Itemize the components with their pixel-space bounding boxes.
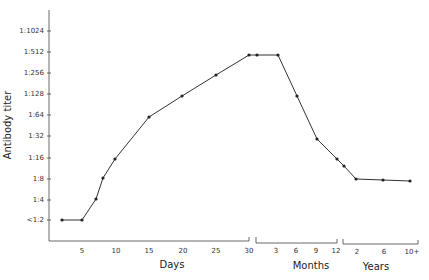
- data-point: [381, 178, 384, 181]
- x-axis-months: [256, 237, 337, 243]
- x-axis: [49, 237, 418, 244]
- y-tick-8: 1:8: [33, 175, 44, 183]
- x-tick-d25: 25: [212, 247, 221, 255]
- y-tick-4: 1:4: [33, 196, 45, 204]
- data-point: [408, 179, 411, 182]
- y-tick-128: 1:128: [24, 90, 44, 98]
- y-tick-64: 1:64: [28, 111, 44, 119]
- x-tick-d15: 15: [145, 247, 154, 255]
- data-point: [295, 94, 298, 97]
- x-tick-m6: 6: [294, 247, 299, 255]
- x-tick-y6: 6: [382, 248, 387, 256]
- data-point: [335, 157, 338, 160]
- x-group-days: Days: [160, 259, 185, 270]
- x-group-months: Months: [293, 260, 330, 271]
- data-point: [60, 218, 63, 221]
- x-tick-m9: 9: [314, 247, 318, 255]
- x-tick-d10: 10: [112, 247, 121, 255]
- titer-series: [60, 53, 411, 221]
- y-tick-1024: 1:1024: [19, 27, 44, 35]
- y-tick-32: 1:32: [28, 132, 44, 140]
- y-tick-256: 1:256: [24, 69, 45, 77]
- data-point: [214, 73, 217, 76]
- titer-line: [62, 55, 410, 220]
- x-tick-y10: 10+: [405, 248, 420, 256]
- y-tick-512: 1:512: [24, 48, 44, 56]
- data-point: [94, 197, 97, 200]
- data-point: [276, 53, 279, 56]
- x-tick-y2: 2: [355, 248, 359, 256]
- data-point: [354, 177, 357, 180]
- x-tick-m12: 12: [332, 247, 341, 255]
- data-point: [315, 137, 318, 140]
- antibody-titer-chart: 1:1024 1:512 1:256 1:128 1:64 1:32 1:16 …: [0, 0, 429, 280]
- data-point: [342, 164, 345, 167]
- x-tick-d5: 5: [80, 247, 84, 255]
- x-tick-d20: 20: [179, 247, 188, 255]
- y-tick-16: 1:16: [28, 154, 44, 162]
- y-tick-2: <1:2: [27, 216, 44, 224]
- data-point: [101, 176, 104, 179]
- x-tick-d30: 30: [245, 247, 254, 255]
- data-point: [255, 53, 258, 56]
- data-point: [247, 53, 250, 56]
- data-point: [113, 157, 116, 160]
- x-group-years: Years: [362, 261, 389, 272]
- y-axis-title: Antibody titer: [2, 90, 13, 160]
- x-tick-m3: 3: [274, 247, 278, 255]
- data-point: [180, 94, 183, 97]
- data-point: [80, 218, 83, 221]
- data-point: [147, 115, 150, 118]
- x-axis-years: [343, 239, 418, 244]
- x-axis-days: [49, 237, 249, 241]
